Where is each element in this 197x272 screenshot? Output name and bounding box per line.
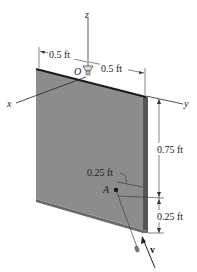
diagram-canvas: z 0.5 ft 0.5 ft x y O 0.75 ft 0.25 ft 0.… (0, 0, 197, 272)
dim-right-lower-label: 0.25 ft (157, 211, 183, 222)
dim-arrow-icon (157, 99, 161, 104)
velocity-arrow-icon (141, 236, 146, 244)
velocity-label: v (150, 244, 155, 255)
dim-arrow-icon (40, 51, 45, 54)
hinge-icon (83, 66, 93, 71)
dim-point-offset-label: 0.25 ft (87, 167, 113, 178)
y-axis-label: y (183, 98, 189, 109)
dim-top-left-label: 0.5 ft (49, 49, 70, 60)
dim-arrow-icon (157, 199, 161, 204)
y-axis (146, 96, 183, 104)
plate-side-edge (143, 96, 148, 231)
dim-arrow-icon (139, 71, 144, 74)
x-axis-label: x (6, 98, 12, 109)
point-A-label: A (102, 184, 110, 195)
dim-top-right-label: 0.5 ft (101, 63, 122, 74)
dim-arrow-icon (157, 192, 161, 197)
origin-label: O (74, 66, 81, 77)
z-axis-label: z (84, 9, 89, 20)
dim-right-upper-label: 0.75 ft (157, 144, 183, 155)
dim-arrow-icon (157, 228, 161, 233)
particle (134, 245, 141, 253)
